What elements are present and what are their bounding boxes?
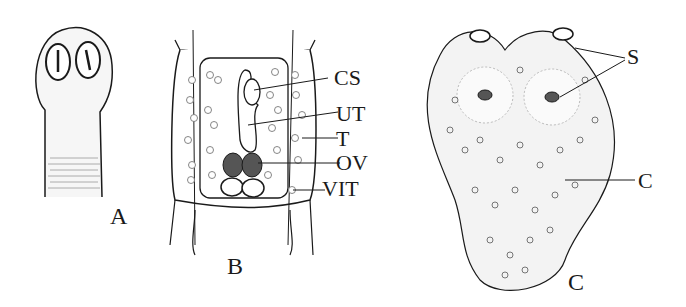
label-s: S <box>627 46 639 68</box>
panel-b: CS UT T OV VIT B <box>150 0 380 307</box>
cirrus-sac-icon <box>244 79 260 105</box>
label-vit: VIT <box>322 178 359 200</box>
sucker-icon <box>545 92 559 102</box>
panel-label-c: C <box>568 270 584 294</box>
sucker-icon <box>553 28 573 40</box>
panel-label-b: B <box>227 254 243 278</box>
ovary-icon <box>223 153 243 177</box>
panel-c: S C C <box>380 0 686 307</box>
label-c-corpuscles: C <box>638 170 653 192</box>
vitellaria-icon <box>221 178 243 196</box>
label-cs: CS <box>334 67 361 89</box>
label-t: T <box>336 128 349 150</box>
scolex-drawing <box>0 0 150 307</box>
larva-drawing <box>380 0 686 307</box>
ovary-icon <box>242 153 262 177</box>
sucker-icon <box>478 90 492 100</box>
panel-a: A <box>0 0 150 307</box>
panel-label-a: A <box>110 204 127 228</box>
label-ut: UT <box>336 103 365 125</box>
label-ov: OV <box>336 152 368 174</box>
sucker-icon <box>470 30 490 42</box>
